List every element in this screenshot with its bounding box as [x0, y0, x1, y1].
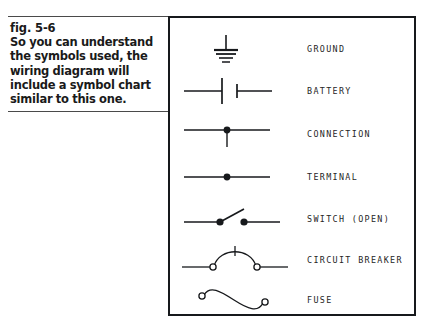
symbol-row-battery: BATTERY — [170, 70, 414, 112]
ground-symbol — [178, 28, 306, 70]
figure-number: fig. 5-6 — [8, 21, 168, 35]
symbol-chart-frame: GROUND BATTERY — [168, 16, 416, 316]
symbol-label-ground: GROUND — [307, 28, 345, 70]
symbol-row-connection: CONNECTION — [170, 113, 414, 155]
figure-caption-block: fig. 5-6 So you can understand the symbo… — [8, 16, 168, 112]
battery-symbol — [178, 70, 306, 112]
symbol-label-terminal: TERMINAL — [307, 156, 358, 198]
fuse-symbol — [178, 279, 306, 321]
symbol-label-fuse: FUSE — [307, 279, 333, 321]
symbol-row-terminal: TERMINAL — [170, 156, 414, 198]
circuit-breaker-symbol — [178, 239, 306, 281]
symbol-row-circuit-breaker: CIRCUIT BREAKER — [170, 239, 414, 281]
symbol-row-ground: GROUND — [170, 28, 414, 70]
connection-symbol — [178, 113, 306, 155]
symbol-row-switch-open: SWITCH (OPEN) — [170, 198, 414, 240]
symbol-chart-rows: GROUND BATTERY — [170, 18, 414, 314]
figure-caption-text: So you can understand the symbols used, … — [8, 35, 168, 106]
symbol-label-connection: CONNECTION — [307, 113, 371, 155]
terminal-symbol — [178, 156, 306, 198]
symbol-row-fuse: FUSE — [170, 279, 414, 321]
symbol-label-switch-open: SWITCH (OPEN) — [307, 198, 390, 240]
symbol-label-battery: BATTERY — [307, 70, 352, 112]
symbol-label-circuit-breaker: CIRCUIT BREAKER — [307, 239, 403, 281]
switch-open-symbol — [178, 198, 306, 240]
